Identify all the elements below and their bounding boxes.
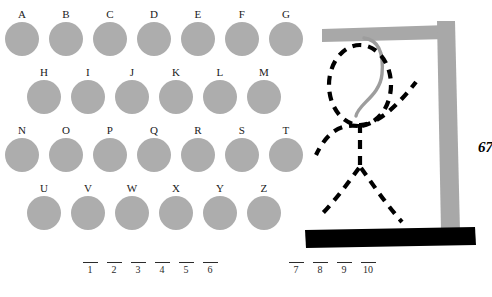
letter-disc-u[interactable]	[27, 196, 61, 230]
letter-disc-y[interactable]	[203, 196, 237, 230]
letter-button-n[interactable]: N	[5, 124, 39, 172]
answer-slot-5[interactable]: 5	[174, 262, 198, 275]
letter-disc-c[interactable]	[93, 22, 127, 56]
rope-icon	[356, 38, 382, 116]
letter-disc-s[interactable]	[225, 138, 259, 172]
gallows-area	[298, 0, 492, 252]
answer-slot-line-1	[83, 262, 98, 263]
letter-button-s[interactable]: S	[225, 124, 259, 172]
letter-disc-a[interactable]	[5, 22, 39, 56]
letter-button-z[interactable]: Z	[247, 182, 281, 230]
letter-disc-f[interactable]	[225, 22, 259, 56]
letter-disc-k[interactable]	[159, 80, 193, 114]
letter-disc-m[interactable]	[247, 80, 281, 114]
left-leg-icon	[320, 168, 359, 216]
answer-slot-number-7: 7	[294, 264, 299, 275]
letter-button-m[interactable]: M	[247, 66, 281, 114]
answer-slot-line-8	[313, 262, 328, 263]
letter-label-x: X	[172, 182, 180, 194]
letter-disc-n[interactable]	[5, 138, 39, 172]
letter-button-f[interactable]: F	[225, 8, 259, 56]
letter-button-o[interactable]: O	[49, 124, 83, 172]
answer-slot-7[interactable]: 7	[284, 262, 308, 275]
letter-label-r: R	[194, 124, 202, 136]
right-leg-icon	[361, 168, 402, 222]
answer-slot-8[interactable]: 8	[308, 262, 332, 275]
letter-button-d[interactable]: D	[137, 8, 171, 56]
letter-disc-i[interactable]	[71, 80, 105, 114]
letter-button-x[interactable]: X	[159, 182, 193, 230]
letter-button-a[interactable]: A	[5, 8, 39, 56]
answer-slot-6[interactable]: 6	[198, 262, 222, 275]
letter-label-q: Q	[150, 124, 158, 136]
letter-disc-v[interactable]	[71, 196, 105, 230]
answer-slot-4[interactable]: 4	[150, 262, 174, 275]
letter-button-e[interactable]: E	[181, 8, 215, 56]
ground-icon	[305, 227, 476, 248]
letter-label-h: H	[40, 66, 48, 78]
letter-disc-j[interactable]	[115, 80, 149, 114]
letter-disc-o[interactable]	[49, 138, 83, 172]
answer-slot-number-3: 3	[136, 264, 141, 275]
answer-slot-number-4: 4	[160, 264, 165, 275]
letter-button-v[interactable]: V	[71, 182, 105, 230]
letter-label-t: T	[283, 124, 290, 136]
head-icon	[329, 45, 391, 125]
answer-slot-3[interactable]: 3	[126, 262, 150, 275]
letter-button-p[interactable]: P	[93, 124, 127, 172]
answer-blanks: 12345678910	[0, 262, 492, 297]
answer-slot-line-10	[361, 262, 376, 263]
letter-button-k[interactable]: K	[159, 66, 193, 114]
letter-button-i[interactable]: I	[71, 66, 105, 114]
answer-slot-number-9: 9	[342, 264, 347, 275]
letter-button-b[interactable]: B	[49, 8, 83, 56]
letter-label-m: M	[259, 66, 269, 78]
letter-disc-w[interactable]	[115, 196, 149, 230]
letter-disc-p[interactable]	[93, 138, 127, 172]
letter-disc-b[interactable]	[49, 22, 83, 56]
answer-slot-line-3	[131, 262, 146, 263]
hangman-drawing	[298, 0, 492, 252]
letter-button-l[interactable]: L	[203, 66, 237, 114]
letter-disc-d[interactable]	[137, 22, 171, 56]
answer-slot-2[interactable]: 2	[102, 262, 126, 275]
letter-disc-q[interactable]	[137, 138, 171, 172]
letter-label-c: C	[106, 8, 114, 20]
letter-row-1: HIJKLM	[27, 66, 281, 114]
letter-label-j: J	[130, 66, 134, 78]
letter-button-r[interactable]: R	[181, 124, 215, 172]
letter-button-w[interactable]: W	[115, 182, 149, 230]
letter-button-y[interactable]: Y	[203, 182, 237, 230]
letter-button-u[interactable]: U	[27, 182, 61, 230]
answer-slot-1[interactable]: 1	[78, 262, 102, 275]
letter-label-k: K	[172, 66, 180, 78]
letter-button-j[interactable]: J	[115, 66, 149, 114]
answer-slot-9[interactable]: 9	[332, 262, 356, 275]
answer-slot-number-1: 1	[88, 264, 93, 275]
answer-slot-line-4	[155, 262, 170, 263]
letter-button-q[interactable]: Q	[137, 124, 171, 172]
letter-button-c[interactable]: C	[93, 8, 127, 56]
answer-slot-line-5	[179, 262, 194, 263]
answer-slot-line-9	[337, 262, 352, 263]
answer-slot-number-2: 2	[112, 264, 117, 275]
letter-disc-h[interactable]	[27, 80, 61, 114]
letter-disc-l[interactable]	[203, 80, 237, 114]
letter-disc-e[interactable]	[181, 22, 215, 56]
answer-slot-number-8: 8	[318, 264, 323, 275]
post-icon	[437, 21, 460, 232]
letter-label-o: O	[62, 124, 70, 136]
hangman-game: ABCDEFGHIJKLMNOPQRSTUVWXYZ	[0, 0, 492, 297]
letter-disc-z[interactable]	[247, 196, 281, 230]
letter-label-l: L	[217, 66, 224, 78]
answer-slot-number-5: 5	[184, 264, 189, 275]
letter-label-z: Z	[261, 182, 268, 194]
letter-label-s: S	[239, 124, 245, 136]
letter-disc-r[interactable]	[181, 138, 215, 172]
letter-button-h[interactable]: H	[27, 66, 61, 114]
letter-label-d: D	[150, 8, 158, 20]
letter-row-2: NOPQRST	[5, 124, 303, 172]
crossbeam-icon	[322, 25, 448, 42]
letter-disc-x[interactable]	[159, 196, 193, 230]
answer-slot-10[interactable]: 10	[356, 262, 380, 275]
